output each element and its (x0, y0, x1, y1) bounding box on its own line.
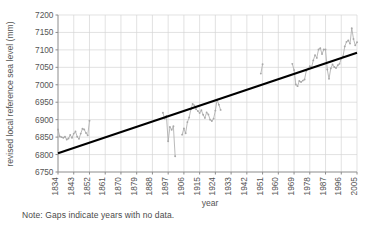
data-point (85, 132, 87, 134)
data-point (82, 128, 84, 130)
data-point (64, 136, 66, 138)
data-point (321, 53, 323, 55)
data-point (326, 68, 328, 70)
x-tick-label: 1897 (160, 177, 170, 196)
data-point (71, 137, 73, 139)
data-point (297, 85, 299, 87)
x-tick-label: 1870 (113, 177, 123, 196)
x-tick-label: 1906 (176, 177, 186, 196)
x-tick-label: 1879 (129, 177, 139, 196)
data-point (174, 155, 176, 157)
y-tick-label: 7000 (35, 80, 54, 90)
y-tick-label: 7200 (35, 10, 54, 20)
data-point (167, 140, 169, 142)
y-tick-label: 6900 (35, 115, 54, 125)
data-point (214, 110, 216, 112)
x-tick-label: 1834 (50, 177, 60, 196)
data-point (314, 54, 316, 56)
data-point (209, 119, 211, 121)
data-point (66, 139, 68, 141)
data-point (218, 104, 220, 106)
data-point (323, 49, 325, 51)
chart-figure: 6750680068506900695070007050710071507200… (0, 0, 377, 230)
data-point (335, 67, 337, 69)
data-point (204, 117, 206, 119)
data-point (83, 128, 85, 130)
y-tick-label: 6950 (35, 97, 54, 107)
data-point (220, 109, 222, 111)
x-axis-title: year (202, 198, 219, 208)
data-point (211, 120, 213, 122)
x-tick-label: 1924 (207, 177, 217, 196)
data-point (61, 136, 63, 138)
data-point (207, 113, 209, 115)
data-point (73, 133, 75, 135)
x-tick-label: 1969 (286, 177, 296, 196)
x-tick-label: 1960 (270, 177, 280, 196)
x-tick-labels: 1834184318521861187018791888189719061915… (50, 177, 359, 196)
data-point (192, 103, 194, 105)
data-point (291, 63, 293, 65)
data-point (162, 112, 164, 114)
y-tick-label: 6800 (35, 150, 54, 160)
data-point (337, 64, 339, 66)
data-point (75, 131, 77, 133)
data-point (202, 114, 204, 116)
data-point (295, 83, 297, 85)
data-point (76, 136, 78, 138)
x-tick-label: 1933 (223, 177, 233, 196)
data-point (318, 49, 320, 51)
sea-level-line-chart: 6750680068506900695070007050710071507200… (0, 0, 377, 230)
data-point (316, 57, 318, 59)
x-tick-label: 2005 (349, 177, 359, 196)
data-point (206, 111, 208, 113)
data-point (185, 132, 187, 134)
chart-note: Note: Gaps indicate years with no data. (22, 210, 174, 220)
data-point (298, 80, 300, 82)
x-tick-label: 1843 (66, 177, 76, 196)
y-tick-label: 6750 (35, 167, 54, 177)
data-point (59, 135, 61, 137)
data-point (183, 127, 185, 129)
data-point (339, 63, 341, 65)
data-point (260, 73, 262, 75)
data-point (186, 121, 188, 123)
x-tick-label: 1888 (144, 177, 154, 196)
data-point (333, 66, 335, 68)
x-tick-label: 1861 (97, 177, 107, 196)
y-tick-label: 6850 (35, 132, 54, 142)
data-point (80, 133, 82, 135)
data-point (89, 120, 91, 122)
data-point (78, 138, 80, 140)
data-point (172, 125, 174, 127)
data-point (195, 108, 197, 110)
data-point (200, 109, 202, 111)
data-point (325, 49, 327, 51)
data-point (309, 65, 311, 67)
data-point (68, 138, 70, 140)
data-point (87, 134, 89, 136)
y-tick-labels: 6750680068506900695070007050710071507200 (35, 10, 54, 177)
x-tick-label: 1996 (333, 177, 343, 196)
data-point (304, 79, 306, 81)
y-tick-label: 7150 (35, 27, 54, 37)
data-point (356, 41, 358, 43)
data-point (188, 117, 190, 119)
data-point (330, 67, 332, 69)
x-tick-label: 1987 (318, 177, 328, 196)
x-tick-label: 1978 (302, 177, 312, 196)
x-tick-label: 1951 (255, 177, 265, 196)
data-point (347, 40, 349, 42)
data-point (344, 45, 346, 47)
data-point (332, 64, 334, 66)
data-point (349, 43, 351, 45)
data-point (353, 38, 355, 40)
data-point (319, 47, 321, 49)
data-point (171, 129, 173, 131)
data-point (169, 126, 171, 128)
x-tick-label: 1942 (239, 177, 249, 196)
data-point (262, 63, 264, 65)
y-tick-label: 7050 (35, 62, 54, 72)
data-point (328, 78, 330, 80)
plot-background (58, 15, 357, 172)
